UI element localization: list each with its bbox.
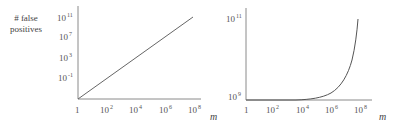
left-x-tick: 106 (159, 106, 172, 115)
right-x-tick: 104 (296, 106, 309, 115)
left-x-tick: 1 (75, 106, 80, 115)
figure: # false positives 1011 107 103 10-1 1 10… (0, 0, 404, 127)
right-series-curve (246, 19, 358, 100)
left-y-tick: 103 (59, 54, 72, 63)
left-y-tick: 107 (59, 33, 72, 42)
right-x-tick: 106 (325, 106, 338, 115)
left-y-tick: 10-1 (58, 74, 73, 83)
y-title-line2: positives (2, 24, 50, 35)
left-x-tick: 104 (129, 106, 142, 115)
right-x-tick: 1 (244, 106, 249, 115)
left-series-line (78, 17, 193, 99)
left-x-tick: 108 (188, 106, 201, 115)
left-y-axis-title: # false positives (2, 13, 50, 36)
left-y-tick: 1011 (57, 14, 73, 23)
right-x-tick: 102 (266, 106, 279, 115)
right-x-tick: 108 (354, 106, 367, 115)
right-x-axis-title: m (379, 111, 386, 122)
right-y-tick: 109 (228, 93, 241, 102)
left-x-tick: 102 (100, 106, 113, 115)
right-y-tick: 1011 (226, 15, 242, 24)
y-title-line1: # false (2, 13, 50, 24)
left-x-axis-title: m (210, 111, 217, 122)
